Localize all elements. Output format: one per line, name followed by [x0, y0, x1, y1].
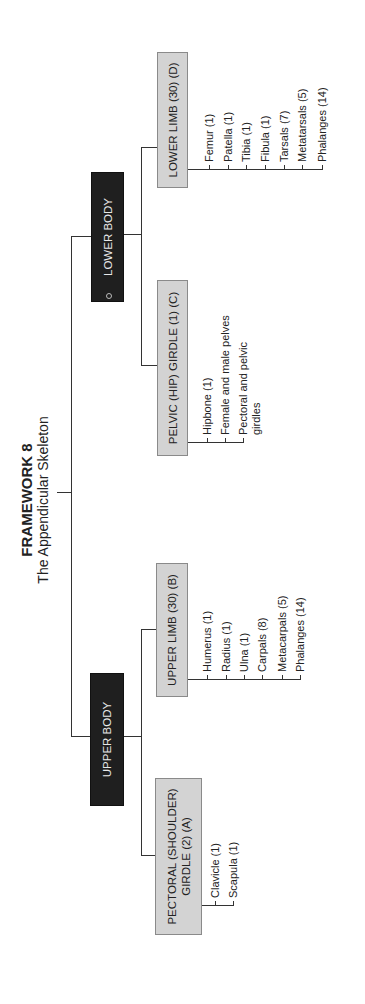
bone-item: Clavicle (1)	[209, 843, 222, 898]
upper-limb-drop	[141, 629, 156, 630]
upper-body-label: UPPER BODY	[100, 702, 114, 777]
pectoral-items-bracket	[202, 905, 234, 906]
bone-item: Scapula (1)	[227, 842, 240, 898]
bone-item: Ulna (1)	[238, 633, 251, 672]
title-connector	[57, 492, 71, 493]
bone-item: Metatarsals (5)	[296, 89, 309, 162]
pectoral-drop	[141, 855, 155, 856]
bone-item: Radius (1)	[220, 621, 233, 672]
lower-body-label: LOWER BODY	[101, 198, 115, 276]
lower-body-stem	[124, 234, 141, 235]
pectoral-girdle-label-line2: GIRDLE (2) (A)	[179, 817, 193, 896]
upper-limb-box: UPPER LIMB (30) (B)	[156, 563, 188, 697]
upper-limb-tick	[244, 675, 245, 680]
lower-limb-box: LOWER LIMB (30) (D)	[157, 52, 188, 188]
lower-limb-tick	[302, 165, 303, 170]
pelvic-tick	[207, 438, 208, 443]
bone-item: Fibula (1)	[259, 116, 272, 162]
bone-item: Hipbone (1)	[201, 378, 214, 435]
upper-limb-label: UPPER LIMB (30) (B)	[165, 574, 179, 686]
upper-body-stem	[124, 736, 141, 737]
bone-item: Phalanges (14)	[316, 87, 329, 162]
pectoral-girdle-box: PECTORAL (SHOULDER) GIRDLE (2) (A)	[155, 778, 202, 935]
bone-item: Carpals (8)	[256, 618, 269, 672]
upper-body-drop	[71, 736, 91, 737]
main-spine	[71, 236, 72, 737]
upper-limb-tick	[262, 675, 263, 680]
bone-item: Tibia (1)	[240, 122, 253, 162]
upper-limb-tick	[282, 675, 283, 680]
pelvic-girdle-box: PELVIC (HIP) GIRDLE (1) (C)	[157, 280, 188, 456]
bone-item: Tarsals (7)	[278, 111, 291, 162]
pelvic-tick	[243, 438, 244, 443]
bone-item: Patella (1)	[222, 112, 235, 162]
lower-limb-tick	[228, 165, 229, 170]
upper-body-branch-bar	[141, 629, 142, 856]
upper-limb-tick	[300, 675, 301, 680]
lower-body-branch-bar	[141, 147, 142, 366]
pectoral-girdle-label-line1: PECTORAL (SHOULDER)	[165, 788, 179, 924]
upper-limb-tick	[226, 675, 227, 680]
pelvic-girdle-label: PELVIC (HIP) GIRDLE (1) (C)	[166, 292, 180, 445]
lower-limb-drop	[141, 147, 157, 148]
diagram-title: FRAMEWORK 8 The Appendicular Skeleton	[18, 400, 52, 600]
pectoral-tick	[215, 901, 216, 906]
marker-dot-icon	[106, 293, 112, 299]
bone-item: Phalanges (14)	[294, 597, 307, 672]
pectoral-tick	[233, 901, 234, 906]
upper-limb-tick	[207, 675, 208, 680]
lower-body-drop	[71, 236, 91, 237]
bone-item: Female and male pelves	[219, 315, 232, 435]
bone-item: Metacarpals (5)	[276, 596, 289, 672]
lower-limb-tick	[209, 165, 210, 170]
upper-body-box: UPPER BODY	[90, 673, 124, 806]
bone-item: Pectoral and pelvic girdles	[237, 340, 263, 435]
title-heading: FRAMEWORK 8	[18, 400, 35, 600]
bone-item: Femur (1)	[203, 114, 216, 162]
lower-limb-tick	[265, 165, 266, 170]
lower-limb-tick	[246, 165, 247, 170]
pelvic-items-bracket	[188, 442, 244, 443]
pelvic-drop	[141, 365, 157, 366]
bone-item: Humerus (1)	[201, 611, 214, 672]
title-subtitle: The Appendicular Skeleton	[35, 400, 52, 600]
appendicular-skeleton-diagram: FRAMEWORK 8 The Appendicular Skeleton UP…	[0, 0, 365, 1004]
lower-limb-tick	[322, 165, 323, 170]
lower-body-box: LOWER BODY	[91, 172, 124, 302]
pelvic-tick	[225, 438, 226, 443]
lower-limb-label: LOWER LIMB (30) (D)	[166, 63, 180, 178]
lower-limb-tick	[284, 165, 285, 170]
